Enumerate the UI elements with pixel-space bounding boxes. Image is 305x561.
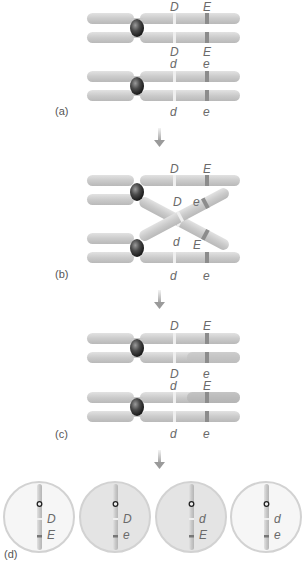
gene-label: d <box>199 513 206 525</box>
gene-label: e <box>203 428 210 440</box>
centromere <box>130 239 144 257</box>
gene-label: E <box>203 163 211 175</box>
gene-label: e <box>203 270 210 282</box>
centromere <box>130 339 144 357</box>
gamete-cell-1 <box>4 482 74 552</box>
gene-label: D <box>123 513 132 525</box>
gamete-cell-2 <box>80 482 150 552</box>
gene-label: e <box>203 58 210 70</box>
panel-label-a: (a) <box>55 105 68 117</box>
gene-label: D <box>170 163 179 175</box>
gene-label: D <box>170 1 179 13</box>
panel-label-d: (d) <box>4 548 17 560</box>
homolog-recombined-2 <box>87 392 240 422</box>
centromere <box>130 398 144 416</box>
gamete-cell-4 <box>231 482 301 552</box>
gene-label: e <box>274 529 281 541</box>
gene-label: D <box>47 513 56 525</box>
gene-label: E <box>203 380 211 392</box>
gene-label: e <box>123 529 130 541</box>
gene-label: E <box>203 1 211 13</box>
homolog-recombined-1 <box>87 333 240 363</box>
gene-label: d <box>170 106 177 118</box>
panel-label-b: (b) <box>55 268 68 280</box>
gene-label: d <box>170 380 177 392</box>
gene-label: e <box>193 196 200 208</box>
gene-label: E <box>203 320 211 332</box>
gene-label: E <box>47 529 55 541</box>
gene-label: d <box>170 270 177 282</box>
gene-label: E <box>193 239 201 251</box>
gamete-cell-3 <box>156 482 226 552</box>
gene-label: d <box>170 58 177 70</box>
gene-label: d <box>274 513 281 525</box>
arrow-down-icon <box>154 450 165 469</box>
centromere <box>130 77 144 95</box>
gene-label: D <box>173 196 182 208</box>
gene-label: e <box>203 106 210 118</box>
gene-label: D <box>170 320 179 332</box>
panel-a <box>87 13 240 147</box>
gene-label: d <box>170 428 177 440</box>
crossing-over-diagram <box>0 0 305 561</box>
centromere <box>130 19 144 37</box>
gene-label: d <box>173 236 180 248</box>
homolog-DE <box>87 13 240 43</box>
arrow-down-icon <box>154 290 165 309</box>
centromere <box>130 183 144 201</box>
panel-c <box>87 333 240 469</box>
panel-label-c: (c) <box>55 428 68 440</box>
homolog-de <box>87 71 240 101</box>
gene-label: E <box>199 529 207 541</box>
panel-b <box>87 175 240 309</box>
arrow-down-icon <box>154 128 165 147</box>
